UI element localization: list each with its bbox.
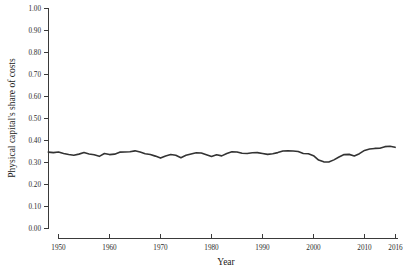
x-tick-label-2000: 2000: [306, 244, 321, 252]
y-tick-label-0.50: 0.50: [28, 115, 41, 123]
y-tick-label-0.30: 0.30: [28, 159, 41, 167]
x-tick-label-2010: 2010: [357, 244, 372, 252]
line-chart-canvas: Physical capital's share of costs 1.00 0…: [0, 0, 409, 274]
data-series-line: [48, 146, 395, 162]
y-axis-title: Physical capital's share of costs: [7, 58, 17, 178]
y-tick-label-0.40: 0.40: [28, 137, 41, 145]
y-tick-group: 1.00 0.90 0.80 0.70 0.60 0.50 0.40 0.30 …: [28, 5, 48, 233]
y-tick-label-0.10: 0.10: [28, 203, 41, 211]
y-tick-label-1.00: 1.00: [28, 5, 41, 13]
y-tick-label-0.00: 0.00: [28, 225, 41, 233]
x-tick-group: 1950 1960 1970 1980 1990 2000 2010 2016: [51, 234, 403, 252]
x-tick-label-1950: 1950: [51, 244, 66, 252]
y-tick-label-0.80: 0.80: [28, 49, 41, 57]
y-tick-label-0.90: 0.90: [28, 27, 41, 35]
x-tick-label-2016: 2016: [388, 244, 403, 252]
x-tick-label-1990: 1990: [255, 244, 270, 252]
y-tick-label-0.20: 0.20: [28, 181, 41, 189]
x-tick-label-1980: 1980: [204, 244, 219, 252]
chart-figure: Physical capital's share of costs 1.00 0…: [0, 0, 409, 274]
x-tick-label-1960: 1960: [102, 244, 117, 252]
x-axis-title: Year: [217, 257, 235, 267]
y-tick-label-0.70: 0.70: [28, 71, 41, 79]
y-tick-label-0.60: 0.60: [28, 93, 41, 101]
x-tick-label-1970: 1970: [153, 244, 168, 252]
